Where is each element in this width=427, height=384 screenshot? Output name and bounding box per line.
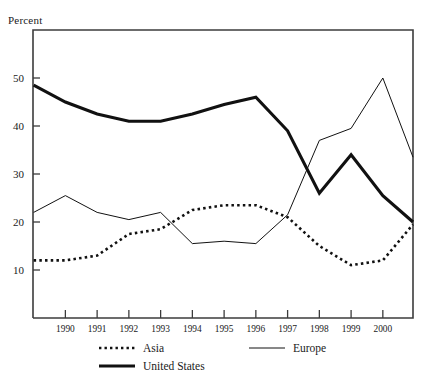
data-series-layer bbox=[34, 78, 413, 265]
x-tick-label: 1992 bbox=[119, 324, 138, 334]
x-tick-label: 1990 bbox=[56, 324, 75, 334]
x-tick-label: 1998 bbox=[310, 324, 329, 334]
y-tick-label: 10 bbox=[13, 264, 25, 276]
series-line-united-states bbox=[34, 85, 413, 222]
line-chart: 1020304050 19901991199219931994199519961… bbox=[0, 0, 427, 340]
legend-label-asia: Asia bbox=[143, 342, 164, 354]
series-line-asia bbox=[34, 205, 413, 265]
figure: Percent 1020304050 199019911992199319941… bbox=[0, 0, 427, 384]
axis-frame bbox=[33, 30, 413, 318]
x-tick-label: 1997 bbox=[278, 324, 297, 334]
legend-swatch-europe bbox=[248, 342, 286, 354]
y-tick-label: 40 bbox=[13, 120, 25, 132]
x-tick-label: 1993 bbox=[151, 324, 170, 334]
y-tick-label: 30 bbox=[13, 168, 25, 180]
chart-legend: Asia Europe United States bbox=[0, 340, 427, 384]
x-tick-label: 2000 bbox=[373, 324, 392, 334]
legend-swatch-asia bbox=[98, 342, 136, 354]
plot-border bbox=[33, 30, 413, 318]
legend-item-asia: Asia bbox=[98, 342, 164, 354]
y-tick-label: 50 bbox=[13, 72, 25, 84]
legend-item-europe: Europe bbox=[248, 342, 326, 354]
y-axis-ticks: 1020304050 bbox=[13, 72, 40, 276]
x-axis-ticks: 1990199119921993199419951996199719981999… bbox=[56, 310, 393, 334]
y-tick-label: 20 bbox=[13, 216, 25, 228]
legend-label-europe: Europe bbox=[293, 342, 326, 354]
plot-area: 1020304050 19901991199219931994199519961… bbox=[0, 0, 427, 340]
x-tick-label: 1995 bbox=[215, 324, 234, 334]
x-tick-label: 1991 bbox=[88, 324, 107, 334]
x-tick-label: 1994 bbox=[183, 324, 202, 334]
legend-label-united-states: United States bbox=[143, 360, 205, 372]
x-tick-label: 1996 bbox=[246, 324, 265, 334]
legend-swatch-united-states bbox=[98, 360, 136, 372]
legend-item-united-states: United States bbox=[98, 360, 205, 372]
x-tick-label: 1999 bbox=[342, 324, 361, 334]
